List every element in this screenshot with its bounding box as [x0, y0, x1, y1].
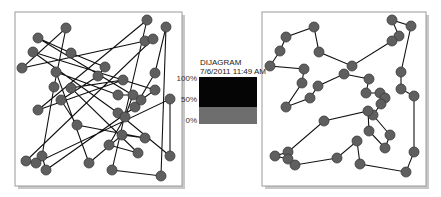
- legend-color-bar: [199, 77, 257, 124]
- city-node: [93, 71, 103, 81]
- city-node: [309, 22, 319, 32]
- diagram-canvas: [0, 0, 441, 197]
- city-node: [33, 105, 43, 115]
- city-node: [156, 171, 166, 181]
- city-node: [128, 90, 138, 100]
- legend-tick-100: 100%: [175, 74, 197, 83]
- city-node: [275, 46, 285, 56]
- city-node: [31, 158, 41, 168]
- city-node: [117, 130, 127, 140]
- city-node: [66, 48, 76, 58]
- city-node: [299, 64, 309, 74]
- city-node: [270, 151, 280, 161]
- legend-timestamp: 7/6/2011 11:49 AM: [200, 67, 266, 76]
- city-node: [265, 61, 275, 71]
- city-node: [51, 67, 61, 77]
- city-node: [364, 74, 374, 84]
- city-node: [120, 112, 130, 122]
- city-node: [339, 69, 349, 79]
- city-node: [33, 33, 43, 43]
- city-node: [107, 165, 117, 175]
- city-node: [305, 93, 315, 103]
- city-node: [313, 81, 323, 91]
- city-node: [355, 159, 365, 169]
- city-node: [347, 61, 357, 71]
- city-node: [150, 68, 160, 78]
- city-node: [297, 78, 307, 88]
- city-node: [314, 47, 324, 57]
- legend-tick-0: 0%: [175, 116, 197, 125]
- city-node: [104, 140, 114, 150]
- city-node: [364, 126, 374, 136]
- city-node: [380, 143, 390, 153]
- city-node: [290, 160, 300, 170]
- city-node: [396, 67, 406, 77]
- city-node: [21, 156, 31, 166]
- city-node: [319, 116, 329, 126]
- legend-bar-top: [199, 77, 257, 107]
- city-node: [385, 130, 395, 140]
- city-node: [150, 85, 160, 95]
- city-node: [133, 148, 143, 158]
- city-node: [396, 84, 406, 94]
- city-node: [376, 99, 386, 109]
- city-node: [84, 158, 94, 168]
- city-node: [66, 83, 76, 93]
- city-node: [409, 147, 419, 157]
- city-node: [387, 36, 397, 46]
- city-node: [140, 133, 150, 143]
- city-node: [61, 23, 71, 33]
- city-node: [28, 47, 38, 57]
- city-node: [281, 102, 291, 112]
- city-node: [118, 75, 128, 85]
- city-node: [148, 34, 158, 44]
- city-node: [387, 15, 397, 25]
- city-node: [406, 21, 416, 31]
- right-panel-optimized-tour: [262, 12, 429, 189]
- city-node: [165, 94, 175, 104]
- city-node: [332, 153, 342, 163]
- city-node: [363, 106, 373, 116]
- city-node: [41, 165, 51, 175]
- city-node: [401, 167, 411, 177]
- city-node: [409, 91, 419, 101]
- city-node: [352, 136, 362, 146]
- city-node: [113, 90, 123, 100]
- city-node: [100, 62, 110, 72]
- city-node: [49, 82, 59, 92]
- city-node: [281, 32, 291, 42]
- left-panel-random-tour: [15, 12, 185, 189]
- city-node: [17, 63, 27, 73]
- city-node: [142, 15, 152, 25]
- city-node: [165, 151, 175, 161]
- city-node: [72, 120, 82, 130]
- city-node: [56, 95, 66, 105]
- legend-title: DIJAGRAM: [200, 58, 241, 67]
- city-node: [161, 22, 171, 32]
- legend-tick-50: 50%: [175, 95, 197, 104]
- city-node: [361, 88, 371, 98]
